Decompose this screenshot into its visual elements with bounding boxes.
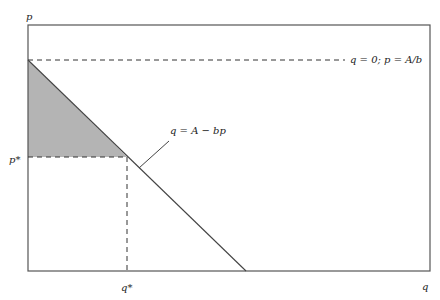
demand-curve [28, 60, 246, 271]
q-star-label: q* [121, 282, 132, 293]
p-star-label: p* [9, 154, 20, 165]
curve-label-leader [139, 141, 169, 168]
curve-label: q = A − bp [170, 125, 226, 136]
demand-diagram: p q q = 0; p = A/b q = A − bp p* q* [0, 0, 440, 300]
intercept-label: q = 0; p = A/b [350, 54, 422, 65]
x-axis-label: q [422, 281, 428, 292]
y-axis-label: p [26, 11, 33, 22]
